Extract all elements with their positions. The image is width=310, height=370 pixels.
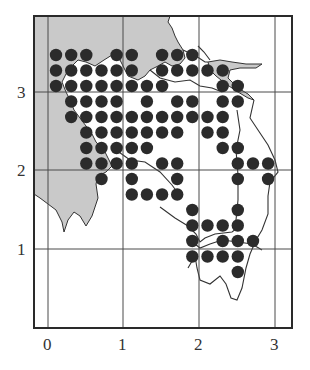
occurrence-dot	[217, 235, 229, 247]
occurrence-dot	[247, 235, 259, 247]
occurrence-dot	[171, 126, 183, 138]
occurrence-dot	[95, 64, 107, 76]
occurrence-dot	[65, 95, 77, 107]
occurrence-dot	[232, 80, 244, 92]
occurrence-dot	[126, 173, 138, 185]
occurrence-dot	[232, 142, 244, 154]
occurrence-dot	[186, 64, 198, 76]
occurrence-dot	[80, 80, 92, 92]
occurrence-dot	[65, 49, 77, 61]
occurrence-dot	[232, 250, 244, 262]
occurrence-dot	[126, 157, 138, 169]
occurrence-dot	[95, 126, 107, 138]
occurrence-dot	[232, 157, 244, 169]
occurrence-dot	[217, 126, 229, 138]
occurrence-dot	[186, 111, 198, 123]
occurrence-dot	[171, 49, 183, 61]
occurrence-dot	[217, 95, 229, 107]
occurrence-dot	[95, 142, 107, 154]
occurrence-dot	[232, 204, 244, 216]
occurrence-dot	[171, 95, 183, 107]
occurrence-dot	[95, 173, 107, 185]
x-tick-label-2: 2	[194, 336, 203, 353]
occurrence-dot	[80, 64, 92, 76]
occurrence-dot	[217, 219, 229, 231]
occurrence-dot	[110, 157, 122, 169]
occurrence-dot	[156, 111, 168, 123]
occurrence-dot	[186, 235, 198, 247]
occurrence-dot	[232, 235, 244, 247]
occurrence-dot	[95, 111, 107, 123]
occurrence-dot	[80, 49, 92, 61]
occurrence-dot	[156, 49, 168, 61]
occurrence-dot	[262, 173, 274, 185]
occurrence-dot	[141, 80, 153, 92]
occurrence-dot	[80, 126, 92, 138]
occurrence-dot	[217, 64, 229, 76]
occurrence-dot	[171, 173, 183, 185]
occurrence-dot	[126, 80, 138, 92]
occurrence-dot	[217, 111, 229, 123]
occurrence-dot	[262, 157, 274, 169]
occurrence-dot	[171, 64, 183, 76]
occurrence-dot	[217, 250, 229, 262]
coastline	[116, 46, 278, 300]
occurrence-dot	[95, 80, 107, 92]
occurrence-dot	[110, 80, 122, 92]
occurrence-dot	[126, 111, 138, 123]
occurrence-dot	[186, 219, 198, 231]
occurrence-dot	[50, 64, 62, 76]
occurrence-dot	[95, 95, 107, 107]
y-tick-label-2: 2	[17, 162, 26, 179]
occurrence-dot	[201, 64, 213, 76]
occurrence-dot	[141, 111, 153, 123]
occurrence-dot	[95, 157, 107, 169]
occurrence-dot	[80, 142, 92, 154]
occurrence-dot	[141, 126, 153, 138]
occurrence-dots	[50, 49, 274, 278]
occurrence-dot	[141, 142, 153, 154]
occurrence-dot	[201, 219, 213, 231]
occurrence-dot	[232, 173, 244, 185]
occurrence-dot	[156, 64, 168, 76]
y-tick-label-3: 3	[17, 84, 26, 101]
occurrence-dot	[110, 126, 122, 138]
occurrence-dot	[50, 80, 62, 92]
y-tick-label-1: 1	[17, 241, 26, 258]
occurrence-dot	[156, 188, 168, 200]
occurrence-dot	[217, 80, 229, 92]
occurrence-dot	[186, 250, 198, 262]
occurrence-dot	[126, 142, 138, 154]
estuary-inlet	[208, 60, 262, 100]
occurrence-dot	[186, 204, 198, 216]
occurrence-dot	[201, 250, 213, 262]
occurrence-dot	[247, 157, 259, 169]
x-tick-label-0: 0	[43, 336, 52, 353]
occurrence-dot	[50, 49, 62, 61]
occurrence-dot	[110, 49, 122, 61]
occurrence-dot	[156, 80, 168, 92]
occurrence-dot	[65, 80, 77, 92]
occurrence-dot	[156, 157, 168, 169]
occurrence-dot	[80, 157, 92, 169]
occurrence-dot	[186, 49, 198, 61]
occurrence-dot	[80, 111, 92, 123]
occurrence-dot	[110, 111, 122, 123]
occurrence-dot	[217, 142, 229, 154]
occurrence-dot	[80, 95, 92, 107]
occurrence-dot	[65, 64, 77, 76]
occurrence-dot	[156, 126, 168, 138]
distribution-map	[0, 0, 310, 370]
x-tick-label-3: 3	[270, 336, 279, 353]
x-tick-label-1: 1	[118, 336, 127, 353]
occurrence-dot	[110, 95, 122, 107]
occurrence-dot	[126, 49, 138, 61]
occurrence-dot	[232, 95, 244, 107]
occurrence-dot	[171, 188, 183, 200]
occurrence-dot	[171, 111, 183, 123]
occurrence-dot	[110, 64, 122, 76]
occurrence-dot	[232, 219, 244, 231]
occurrence-dot	[201, 111, 213, 123]
occurrence-dot	[126, 126, 138, 138]
occurrence-dot	[65, 111, 77, 123]
